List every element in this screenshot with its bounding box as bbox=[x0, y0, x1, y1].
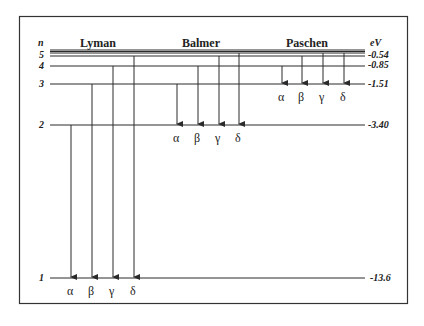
balmer-gamma-label: γ bbox=[214, 131, 221, 145]
paschen-beta-label: β bbox=[298, 90, 304, 104]
n-axis-label: n bbox=[38, 37, 44, 48]
series-title-balmer: Balmer bbox=[182, 36, 221, 50]
lyman-alpha-label: α bbox=[67, 284, 74, 298]
balmer-delta-label: δ bbox=[235, 131, 241, 145]
balmer-alpha-label: α bbox=[173, 131, 180, 145]
level-n-label-5: 5 bbox=[39, 49, 44, 60]
lyman-gamma-label: γ bbox=[108, 284, 115, 298]
paschen-gamma-label: γ bbox=[318, 90, 325, 104]
lyman-delta-label: δ bbox=[130, 284, 136, 298]
diagram-frame bbox=[20, 17, 408, 304]
lyman-beta-label: β bbox=[88, 284, 94, 298]
level-n-label-3: 3 bbox=[38, 78, 44, 89]
level-n-label-1: 1 bbox=[39, 272, 44, 283]
level-energy-label-3: -1.51 bbox=[368, 78, 389, 89]
level-n-label-4: 4 bbox=[38, 60, 44, 71]
level-energy-label-2: -3.40 bbox=[368, 119, 389, 130]
series-title-paschen: Paschen bbox=[286, 36, 328, 50]
paschen-delta-label: δ bbox=[340, 90, 346, 104]
balmer-series-arrows bbox=[177, 53, 239, 124]
level-n-label-2: 2 bbox=[38, 119, 44, 130]
continuum-band bbox=[50, 50, 365, 53]
series-title-lyman: Lyman bbox=[80, 36, 116, 50]
balmer-beta-label: β bbox=[194, 131, 200, 145]
level-energy-label-1: -13.6 bbox=[370, 272, 391, 283]
lyman-series-arrows bbox=[71, 56, 134, 277]
ev-axis-label: eV bbox=[370, 37, 382, 48]
paschen-alpha-label: α bbox=[278, 90, 285, 104]
energy-levels bbox=[50, 56, 365, 278]
level-energy-label-4: -0.85 bbox=[368, 59, 389, 70]
energy-level-diagram: n eV Lyman Balmer Paschen 5 4 3 2 1 -0.5… bbox=[0, 0, 424, 326]
paschen-series-arrows bbox=[282, 53, 344, 83]
